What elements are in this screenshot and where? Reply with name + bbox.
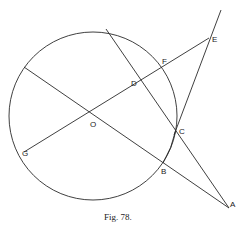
label-E: E	[212, 35, 217, 44]
label-G: G	[22, 149, 28, 158]
label-D: D	[131, 79, 137, 88]
label-C: C	[179, 127, 185, 136]
line-through-O-B-to-A	[24, 67, 229, 208]
line-C-E-extended	[174, 10, 221, 135]
circle	[9, 32, 177, 200]
arc-B-C-double	[163, 131, 176, 163]
label-B: B	[161, 167, 166, 176]
label-O: O	[90, 120, 96, 129]
label-A: A	[230, 200, 236, 209]
chord-through-D-C-to-A	[106, 29, 229, 208]
figure-caption: Fig. 78.	[104, 212, 132, 222]
geometry-figure: E F D O C G B A Fig. 78.	[0, 0, 244, 227]
label-F: F	[162, 57, 167, 66]
